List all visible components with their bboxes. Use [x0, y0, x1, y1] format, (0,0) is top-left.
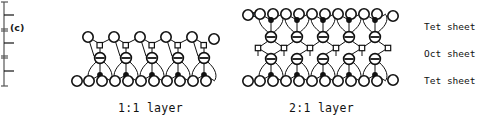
oxygen-row-bottom: [72, 76, 211, 86]
diagram-1-1-layer: [72, 26, 218, 88]
caption-2-1-layer: 2:1 layer: [289, 101, 354, 115]
figure-root: (c) (d): [0, 0, 492, 131]
bracket-label-oct-sheet: Oct sheet: [424, 48, 475, 59]
bracket-label-tet-sheet-top: Tet sheet: [424, 21, 475, 32]
caption-1-1-layer: 1:1 layer: [118, 101, 183, 115]
tetrahedral-cation-row: [97, 43, 206, 48]
octahedral-cation-row: [255, 45, 390, 50]
bracket-label-tet-sheet-bottom: Tet sheet: [424, 75, 475, 86]
panel-label-c: (c): [10, 22, 24, 33]
diagram-2-1-layer: [243, 4, 403, 94]
sheet-brackets: [0, 0, 22, 88]
